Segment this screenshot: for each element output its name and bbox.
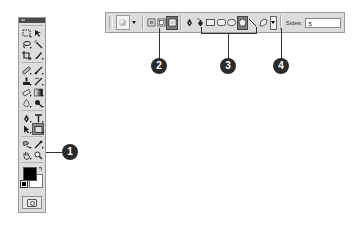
marquee-tool[interactable] xyxy=(21,28,31,38)
preset-ball-icon xyxy=(119,19,126,26)
paths-button[interactable] xyxy=(157,17,167,29)
callout-4: 4 xyxy=(273,58,289,74)
polygon-icon xyxy=(238,18,247,27)
tool-preset-picker[interactable] xyxy=(116,15,130,30)
default-colors-icon[interactable] xyxy=(21,181,27,187)
path-selection-tool[interactable] xyxy=(21,124,31,134)
magic-wand-icon xyxy=(34,40,43,49)
toolbox-titlebar[interactable] xyxy=(19,18,45,23)
divider xyxy=(21,110,43,111)
options-bar-grip[interactable] xyxy=(109,16,113,29)
toolbox-panel: ↰ xyxy=(18,17,46,213)
zoom-tool[interactable] xyxy=(33,150,43,160)
magnifier-icon xyxy=(34,151,43,160)
custom-shape-button[interactable] xyxy=(259,17,269,29)
slice-tool[interactable] xyxy=(33,50,43,60)
mask-mode-icon xyxy=(27,199,37,207)
dodge-tool[interactable] xyxy=(33,98,43,108)
custom-shape-icon xyxy=(259,18,268,27)
ellipse-button[interactable] xyxy=(227,17,237,29)
divider xyxy=(142,15,143,30)
options-bar: Sides: 5 xyxy=(105,12,345,33)
ellipse-icon xyxy=(227,18,236,27)
rounded-rectangle-icon xyxy=(217,18,226,27)
polygon-button[interactable] xyxy=(238,17,248,29)
quick-mask-mode-button[interactable] xyxy=(22,196,42,209)
freeform-pen-icon xyxy=(196,18,205,27)
divider xyxy=(21,162,43,163)
type-tool[interactable] xyxy=(33,113,43,123)
blur-tool[interactable] xyxy=(21,98,31,108)
gradient-tool[interactable] xyxy=(33,87,43,97)
callout-2: 2 xyxy=(151,58,167,74)
magic-wand-tool[interactable] xyxy=(33,39,43,49)
paths-icon xyxy=(157,18,166,27)
callout-1: 1 xyxy=(62,144,78,160)
callout-3: 3 xyxy=(220,58,236,74)
move-tool[interactable] xyxy=(33,28,43,38)
notes-tool[interactable] xyxy=(21,139,31,149)
callout-bracket-3-right xyxy=(256,27,257,34)
shape-layers-icon xyxy=(147,18,156,27)
callout-leader-3 xyxy=(228,33,229,60)
sides-label: Sides: xyxy=(286,20,303,26)
geometry-options-dropdown[interactable] xyxy=(270,16,277,30)
fill-pixels-button[interactable] xyxy=(167,17,177,29)
pen-tool[interactable] xyxy=(21,113,31,123)
color-swatches: ↰ xyxy=(21,166,43,190)
hand-tool[interactable] xyxy=(21,150,31,160)
brush-tool[interactable] xyxy=(33,65,43,75)
eyedropper-tool[interactable] xyxy=(33,139,43,149)
rectangle-icon xyxy=(206,18,215,27)
callout-leader-2 xyxy=(159,28,160,61)
grip-icon xyxy=(21,19,25,21)
pen-button[interactable] xyxy=(185,17,195,29)
eraser-tool[interactable] xyxy=(21,87,31,97)
healing-brush-tool[interactable] xyxy=(21,65,31,75)
callout-bracket-3-left xyxy=(201,27,202,34)
history-brush-tool[interactable] xyxy=(33,76,43,86)
shape-layers-button[interactable] xyxy=(146,17,156,29)
divider xyxy=(21,62,43,63)
divider xyxy=(180,15,181,30)
fill-pixels-icon xyxy=(168,18,177,27)
rectangle-button[interactable] xyxy=(206,17,216,29)
swap-colors-icon[interactable]: ↰ xyxy=(38,166,43,172)
pen-icon xyxy=(185,18,194,27)
divider xyxy=(21,136,43,137)
rounded-rectangle-button[interactable] xyxy=(216,17,226,29)
line-icon xyxy=(248,18,257,27)
callout-leader-4 xyxy=(281,28,282,61)
callout-bracket-3 xyxy=(201,33,257,34)
shape-tool[interactable] xyxy=(33,124,43,134)
divider xyxy=(21,25,43,26)
preset-dropdown-arrow-icon[interactable] xyxy=(132,21,136,24)
sides-input[interactable]: 5 xyxy=(305,18,341,28)
move-icon xyxy=(34,29,43,38)
lasso-tool[interactable] xyxy=(21,39,31,49)
crop-tool[interactable] xyxy=(21,50,31,60)
foreground-color-swatch[interactable] xyxy=(23,167,37,181)
clone-stamp-tool[interactable] xyxy=(21,76,31,86)
